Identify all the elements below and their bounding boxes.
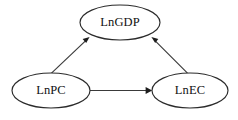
diagram-canvas: LnGDP LnPC LnEC	[0, 0, 238, 120]
node-lnpc[interactable]: LnPC	[12, 73, 90, 108]
node-lnec[interactable]: LnEC	[152, 73, 228, 108]
edge-lnpc-to-lngdp	[52, 37, 90, 73]
node-lngdp[interactable]: LnGDP	[80, 5, 160, 40]
node-lnec-label: LnEC	[175, 83, 205, 97]
edge-lnec-to-lngdp	[151, 37, 187, 73]
diagram-svg: LnGDP LnPC LnEC	[0, 0, 238, 120]
edge-lnec-to-lngdp-line	[154, 40, 187, 73]
edge-lnpc-to-lnec	[90, 87, 152, 94]
node-lngdp-label: LnGDP	[100, 15, 139, 29]
edge-lnpc-to-lngdp-line	[52, 40, 87, 74]
edge-lnpc-to-lnec-arrowhead	[146, 87, 153, 94]
node-lnpc-label: LnPC	[36, 83, 66, 97]
